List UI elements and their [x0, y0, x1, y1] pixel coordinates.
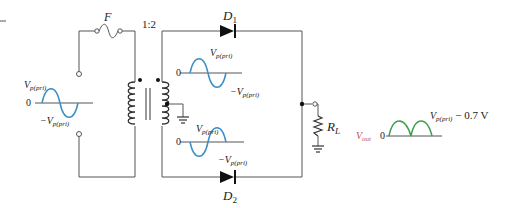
- polarity-dot-secondary: [156, 78, 160, 82]
- ground-icon: [312, 146, 324, 152]
- load-label: RL: [327, 120, 340, 136]
- upper-neg-peak-label: −Vp(pri): [230, 87, 259, 99]
- upper-peak-label: Vp(pri): [210, 48, 232, 60]
- fuse-icon: [95, 24, 122, 38]
- input-terminal-bottom: [77, 132, 82, 137]
- diode-d2-icon: [220, 170, 235, 184]
- input-terminal-top: [77, 72, 82, 77]
- vout-label: Vout: [356, 131, 371, 143]
- rectifier-diagram: F 1:2 D1 D2 RL Vp(pri) 0 −Vp(pri) Vp(pri…: [0, 0, 507, 208]
- primary-wires: [79, 31, 135, 177]
- vout-peak-label: Vp(pri) − 0.7 V: [430, 110, 488, 123]
- output-terminal: [313, 102, 317, 106]
- fuse-label: F: [104, 11, 111, 23]
- diode-d2-label: D2: [223, 189, 237, 205]
- lower-neg-peak-label: −Vp(pri): [218, 155, 247, 167]
- primary-coil-icon: [128, 82, 135, 124]
- upper-zero-label: 0: [176, 68, 181, 78]
- transformer-core-icon: [146, 88, 150, 120]
- diode-d1-label: D1: [223, 9, 237, 25]
- circuit-schematic: [0, 0, 507, 208]
- lower-peak-label: Vp(pri): [196, 124, 218, 136]
- output-node: [300, 102, 304, 106]
- diode-d1-icon: [220, 24, 235, 38]
- vout-zero-label: 0: [380, 131, 385, 141]
- center-tap-node: [165, 102, 169, 106]
- output-rectified-wave: [389, 121, 432, 136]
- input-zero-label: 0: [26, 98, 31, 108]
- polarity-dot-primary: [138, 78, 142, 82]
- input-peak-label: Vp(pri): [24, 80, 46, 92]
- input-neg-peak-label: −Vp(pri): [40, 116, 69, 128]
- transformer-ratio: 1:2: [142, 19, 156, 30]
- ground-icon: [177, 117, 189, 123]
- lower-zero-label: 0: [176, 137, 181, 147]
- resistor-icon: [314, 116, 322, 136]
